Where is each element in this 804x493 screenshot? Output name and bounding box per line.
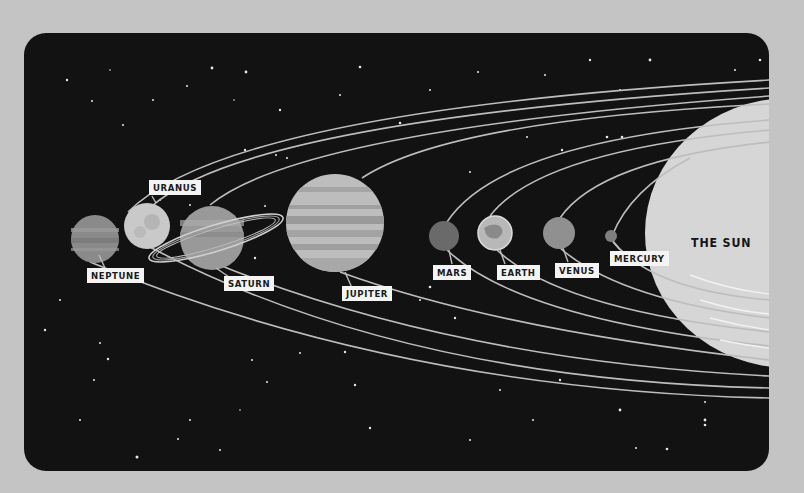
label-mercury: MERCURY	[610, 251, 669, 266]
label-earth: EARTH	[497, 265, 540, 280]
label-mars: MARS	[433, 265, 471, 280]
neptune-planet	[71, 215, 119, 263]
label-venus: VENUS	[555, 263, 599, 278]
uranus-planet	[124, 203, 170, 249]
sun-label: THE SUN	[691, 235, 751, 250]
earth-planet	[478, 216, 512, 250]
label-neptune: NEPTUNE	[87, 268, 144, 283]
mars-planet	[429, 221, 459, 251]
mercury-planet	[605, 230, 617, 242]
venus-planet	[543, 217, 575, 249]
jupiter-planet	[286, 174, 384, 272]
solar-system-panel: URANUS NEPTUNE SATURN JUPITER MARS EARTH…	[24, 33, 769, 471]
label-jupiter: JUPITER	[342, 286, 392, 301]
label-saturn: SATURN	[224, 276, 274, 291]
label-uranus: URANUS	[149, 180, 201, 195]
